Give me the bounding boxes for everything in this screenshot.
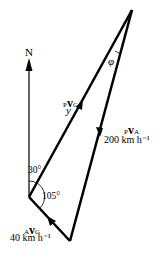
angle-30-label: 30° xyxy=(28,166,41,176)
north-label: N xyxy=(25,47,33,58)
vector-pva xyxy=(70,10,132,241)
north-arrowhead-icon xyxy=(26,58,33,71)
arc-30 xyxy=(29,181,37,183)
phi-label: φ xyxy=(108,56,114,67)
pva-magnitude: 200 km h⁻¹ xyxy=(104,135,150,145)
angle-105-label: 105° xyxy=(42,192,60,202)
avg-magnitude: 40 km h⁻¹ xyxy=(10,233,51,243)
pvg-unknown: y xyxy=(66,105,71,116)
vector-triangle-diagram: N φ PvG y PvA 200 km h⁻¹ 30° 105° AvG 40… xyxy=(0,0,161,259)
